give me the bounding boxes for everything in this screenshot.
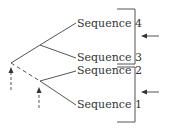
left-arrow-icon bbox=[141, 34, 147, 39]
up-arrow-icon bbox=[37, 87, 42, 93]
branch-sequence-3 bbox=[40, 45, 76, 58]
branch-root-to-clade-a bbox=[11, 45, 40, 63]
up-arrow-icon bbox=[9, 67, 14, 73]
branch-sequence-2 bbox=[40, 71, 76, 81]
branch-sequence-4 bbox=[40, 23, 76, 45]
left-arrow-icon bbox=[141, 90, 147, 95]
label-sequence-1: Sequence 1 bbox=[77, 99, 142, 111]
label-sequence-4: Sequence 4 bbox=[77, 18, 142, 30]
dashed-branch-root-to-clade-b bbox=[11, 63, 40, 81]
label-sequence-2: Sequence 2 bbox=[77, 65, 142, 77]
branch-sequence-1 bbox=[40, 81, 76, 105]
label-sequence-3: Sequence 3 bbox=[77, 52, 142, 64]
